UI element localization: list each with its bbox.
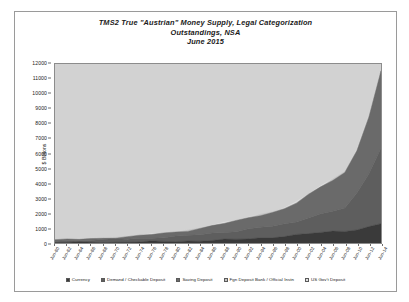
y-tick-label: 4000: [35, 181, 47, 187]
y-tick-mark: [48, 244, 51, 245]
x-tick-label: Jun-70: [109, 246, 120, 261]
y-tick-mark: [48, 123, 51, 124]
y-tick-label: 10000: [32, 90, 47, 96]
y-tick-label: 11000: [33, 75, 47, 81]
x-tick-label: Jun-90: [231, 246, 242, 261]
y-tick-mark: [48, 198, 51, 199]
y-tick-label: 5000: [35, 166, 47, 172]
x-tick-label: Jun-80: [170, 246, 181, 261]
y-tick-mark: [48, 153, 51, 154]
y-tick-label: 12000: [32, 60, 47, 66]
chart-subtitle-date: June 2015: [15, 37, 396, 47]
y-tick-label: 3000: [35, 196, 47, 202]
y-tick-label: 2000: [35, 211, 47, 217]
y-tick-mark: [48, 108, 51, 109]
x-tick-label: Jun-62: [61, 246, 72, 261]
x-tick-label: Jun-82: [182, 246, 193, 261]
x-tick-label: Jun-94: [255, 246, 266, 261]
y-tick-mark: [48, 93, 51, 94]
y-axis-ticks: 0100020003000400050006000700080009000100…: [17, 63, 51, 244]
x-tick-label: Jun-98: [279, 246, 290, 261]
y-tick-label: 7000: [35, 135, 47, 141]
plot-wrapper: $ Billions 01000200030004000500060007000…: [54, 63, 382, 244]
x-tick-label: Jun-72: [121, 246, 132, 261]
x-tick-label: Jun-74: [134, 246, 145, 261]
x-tick-label: Jun-88: [219, 246, 230, 261]
legend-item-saving-deposit[interactable]: Saving Deposit: [176, 277, 212, 282]
x-tick-label: Jun-84: [194, 246, 205, 261]
y-tick-label: 8000: [35, 120, 47, 126]
x-tick-label: Jun-12: [364, 246, 375, 261]
x-tick-label: Jun-92: [243, 246, 254, 261]
y-tick-mark: [48, 213, 51, 214]
legend-label: Saving Deposit: [182, 277, 212, 282]
x-tick-label: Jun-00: [291, 246, 302, 261]
x-tick-label: Jun-96: [267, 246, 278, 261]
chart-subtitle: Outstandings, NSA: [15, 28, 396, 38]
x-tick-label: Jun-66: [85, 246, 96, 261]
legend-swatch-icon: [66, 278, 70, 282]
x-tick-label: Jun-60: [48, 246, 59, 261]
legend-item-demand-checkable-deposit[interactable]: Demand / Checkable Deposit: [101, 277, 165, 282]
x-tick-label: Jun-10: [352, 246, 363, 261]
x-tick-label: Jun-04: [316, 246, 327, 261]
legend-label: Demand / Checkable Deposit: [107, 277, 165, 282]
y-tick-mark: [48, 168, 51, 169]
x-tick-label: Jun-08: [340, 246, 351, 261]
y-tick-label: 0: [44, 241, 47, 247]
x-tick-label: Jun-06: [328, 246, 339, 261]
legend-item-currency[interactable]: Currency: [66, 277, 90, 282]
chart-title-block: TMS2 True "Austrian" Money Supply, Legal…: [15, 18, 396, 47]
chart-title: TMS2 True "Austrian" Money Supply, Legal…: [15, 18, 396, 28]
legend-swatch-icon: [224, 278, 228, 282]
legend-label: Fgn Deposit Bank / Official Instn: [230, 277, 294, 282]
y-tick-label: 9000: [35, 105, 47, 111]
legend-swatch-icon: [176, 278, 180, 282]
legend-swatch-icon: [305, 278, 309, 282]
y-tick-mark: [48, 78, 51, 79]
legend-item-fgn-deposit-bank-official-instn[interactable]: Fgn Deposit Bank / Official Instn: [224, 277, 294, 282]
chart-legend: CurrencyDemand / Checkable DepositSaving…: [15, 277, 396, 282]
y-tick-mark: [48, 183, 51, 184]
legend-label: Currency: [72, 277, 90, 282]
x-tick-label: Jun-78: [158, 246, 169, 261]
x-tick-label: Jun-14: [376, 246, 387, 261]
y-tick-label: 6000: [35, 151, 47, 157]
x-tick-label: Jun-76: [146, 246, 157, 261]
y-tick-mark: [48, 63, 51, 64]
stacked-area-series: [55, 64, 381, 243]
chart-frame: TMS2 True "Austrian" Money Supply, Legal…: [14, 11, 397, 292]
x-tick-label: Jun-64: [73, 246, 84, 261]
y-tick-label: 1000: [35, 226, 47, 232]
x-tick-label: Jun-68: [97, 246, 108, 261]
x-tick-label: Jun-86: [206, 246, 217, 261]
legend-swatch-icon: [101, 278, 105, 282]
x-tick-label: Jun-02: [304, 246, 315, 261]
legend-item-us-gov-t-deposit[interactable]: US Gov't Deposit: [305, 277, 345, 282]
y-tick-mark: [48, 228, 51, 229]
plot-area: [54, 63, 382, 244]
legend-label: US Gov't Deposit: [311, 277, 345, 282]
y-tick-mark: [48, 138, 51, 139]
